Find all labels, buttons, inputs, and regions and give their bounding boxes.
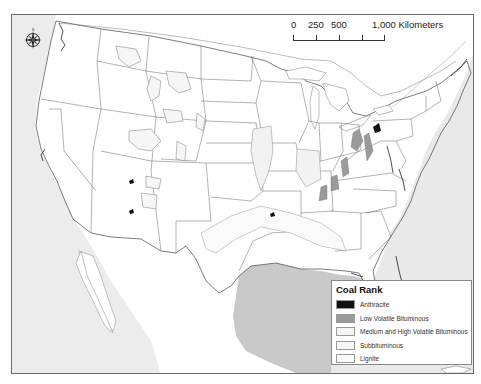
- lignite-swatch: [336, 354, 355, 363]
- scale-tick-250: [316, 35, 317, 40]
- legend-item-medium-high-volatile-bituminous: Medium and High Volatile Bituminous: [336, 325, 467, 338]
- compass-rose-icon: N: [21, 28, 45, 52]
- low-volatile-bituminous-swatch: [336, 314, 355, 323]
- medium-high-volatile-bituminous-swatch: [336, 327, 355, 336]
- anthracite-swatch: [336, 300, 355, 309]
- lake-superior: [286, 67, 326, 81]
- subbituminous-swatch: [336, 341, 355, 350]
- scale-tick-750: [362, 35, 363, 40]
- legend-label: Medium and High Volatile Bituminous: [360, 328, 468, 335]
- legend-item-lignite: Lignite: [336, 352, 467, 365]
- scale-label-500: 500: [331, 19, 347, 30]
- compass-n: N: [32, 28, 34, 32]
- legend-item-low-volatile-bituminous: Low Volatile Bituminous: [336, 312, 467, 325]
- scale-bar: 0 250 500 1,000 Kilometers: [285, 19, 445, 49]
- legend-item-anthracite: Anthracite: [336, 298, 467, 311]
- lake-huron: [323, 83, 349, 111]
- map-frame: 0 250 500 1,000 Kilometers N Coal Rank A…: [11, 14, 474, 374]
- legend-label: Low Volatile Bituminous: [360, 315, 429, 322]
- st-lawrence: [393, 41, 466, 107]
- scale-tick-500: [339, 35, 340, 40]
- north-arrow: N: [21, 28, 45, 52]
- legend: Coal Rank Anthracite Low Volatile Bitumi…: [331, 280, 472, 365]
- legend-label: Lignite: [360, 355, 379, 362]
- western-coal-basins: [116, 46, 205, 209]
- legend-label: Anthracite: [360, 301, 389, 308]
- lake-erie: [339, 115, 371, 131]
- pacific-ocean: [12, 15, 161, 374]
- legend-label: Subbituminous: [360, 342, 403, 349]
- legend-item-subbituminous: Subbituminous: [336, 339, 467, 352]
- scale-label-0: 0: [291, 19, 296, 30]
- scale-label-1000: 1,000 Kilometers: [372, 19, 443, 30]
- legend-title: Coal Rank: [336, 284, 467, 295]
- interior-coal-basins: [251, 126, 321, 191]
- scale-label-250: 250: [308, 19, 324, 30]
- appalachian-coal-fields: [319, 129, 373, 201]
- lake-ontario: [373, 105, 393, 115]
